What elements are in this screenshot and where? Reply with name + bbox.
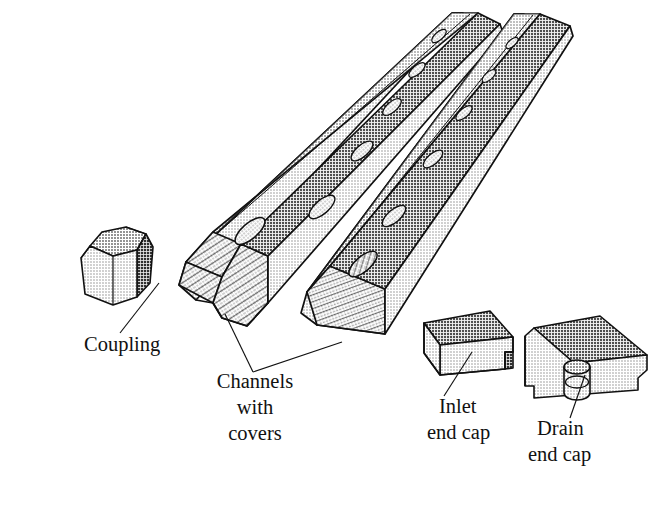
technical-illustration: Coupling Channels with covers Inlet end … xyxy=(0,0,667,512)
channels-label-line-3: covers xyxy=(228,422,282,444)
drain-spout-inner-rim xyxy=(566,376,589,388)
inlet-cap-notch-face xyxy=(505,352,513,369)
channels-label-line-1: Channels xyxy=(217,370,293,392)
drain-label-line-2: end cap xyxy=(528,443,591,466)
coupling-front-face xyxy=(81,246,137,305)
coupling-label: Coupling xyxy=(84,333,160,356)
inlet-label-line-1: Inlet xyxy=(439,395,477,417)
drain-spout-top-rim xyxy=(564,360,590,374)
channels-label-line-2: with xyxy=(237,396,273,418)
drain-label-line-1: Drain xyxy=(537,417,584,439)
assembly-drawing-canvas: Coupling Channels with covers Inlet end … xyxy=(0,0,667,512)
inlet-label-line-2: end cap xyxy=(427,421,490,444)
